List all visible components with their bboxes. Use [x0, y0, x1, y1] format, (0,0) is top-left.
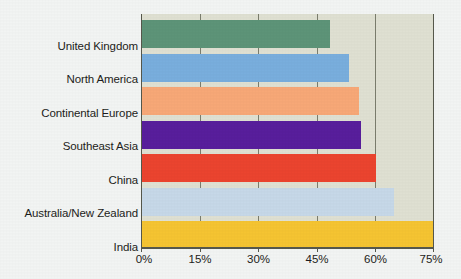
- x-tick-label-45: 45%: [305, 253, 328, 265]
- tick-mark-60: [375, 248, 376, 252]
- tick-mark-15: [200, 248, 201, 252]
- tick-mark-75: [433, 248, 434, 252]
- x-tick-label-60: 60%: [364, 253, 387, 265]
- category-label-china: China: [3, 174, 138, 186]
- category-label-north-america: North America: [3, 73, 138, 85]
- x-tick-label-0: 0%: [136, 253, 153, 265]
- x-tick-label-15: 15%: [188, 253, 211, 265]
- tick-mark-30: [258, 248, 259, 252]
- category-label-continental-europe: Continental Europe: [3, 107, 138, 119]
- plot-area: [141, 14, 434, 248]
- category-label-united-kingdom: United Kingdom: [3, 40, 138, 52]
- category-axis-labels: United Kingdom North America Continental…: [0, 14, 138, 248]
- bar-china[interactable]: [142, 154, 376, 182]
- bar-united-kingdom[interactable]: [142, 20, 330, 48]
- bar-continental-europe[interactable]: [142, 87, 359, 115]
- category-label-india: India: [3, 241, 138, 253]
- tick-mark-0: [141, 248, 142, 252]
- x-tick-label-30: 30%: [247, 253, 270, 265]
- tick-mark-45: [317, 248, 318, 252]
- category-label-southeast-asia: Southeast Asia: [3, 140, 138, 152]
- x-tick-label-75: 75%: [419, 253, 442, 265]
- bar-australia-new-zealand[interactable]: [142, 188, 394, 216]
- category-label-australia-new-zealand: Australia/New Zealand: [3, 207, 138, 219]
- bar-chart: United Kingdom North America Continental…: [0, 0, 461, 279]
- bar-india[interactable]: [142, 221, 433, 248]
- x-axis-line: [141, 247, 434, 249]
- bar-southeast-asia[interactable]: [142, 121, 361, 149]
- bar-north-america[interactable]: [142, 54, 349, 82]
